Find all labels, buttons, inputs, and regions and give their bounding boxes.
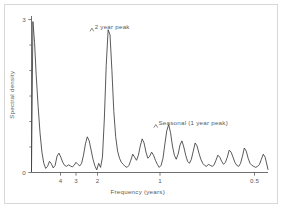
- x-axis-tick-label: 0.5: [250, 177, 260, 184]
- x-axis-title: Frequency (years): [111, 188, 165, 195]
- x-axis-tick-label: 4: [59, 177, 63, 184]
- y-axis-title: Spectral density: [8, 70, 15, 119]
- y-axis-tick-label: 3: [22, 16, 26, 23]
- x-axis-ticks: [61, 173, 255, 176]
- annotation-pointer-icon: [90, 28, 94, 31]
- chart-axes: [32, 16, 269, 173]
- y-axis-ticks: [28, 20, 31, 173]
- y-axis-tick-labels: 03: [22, 16, 26, 176]
- x-axis-tick-label: 2: [96, 177, 100, 184]
- chart-annotation-2: Seasonal (1 year peak): [158, 119, 227, 126]
- x-axis-tick-label: 3: [74, 177, 78, 184]
- y-axis-tick-label: 0: [22, 169, 26, 176]
- chart-annotation-1: 2 year peak: [95, 23, 131, 30]
- x-axis-tick-label: 1: [158, 177, 162, 184]
- chart-annotations: 2 year peakSeasonal (1 year peak): [90, 23, 228, 128]
- spectral-density-chart: 03 43210.5 Frequency (years) Spectral de…: [0, 0, 283, 209]
- annotation-pointer-icon: [154, 124, 158, 127]
- spectral-density-curve: [32, 22, 269, 172]
- spectral-density-figure: 03 43210.5 Frequency (years) Spectral de…: [0, 0, 283, 209]
- x-axis-tick-labels: 43210.5: [59, 177, 260, 184]
